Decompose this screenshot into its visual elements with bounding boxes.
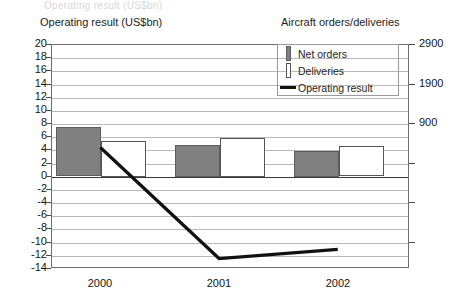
y2-axis-tick-mark (409, 84, 415, 85)
x-axis-category-label: 2001 (189, 277, 249, 289)
legend-item-label: Deliveries (298, 65, 344, 77)
black-line-swatch (278, 86, 298, 89)
y-axis-tick-label: -8 (3, 222, 47, 233)
right-axis-title: Aircraft orders/deliveries (281, 16, 400, 29)
y-axis-tick-label: 2 (3, 157, 47, 168)
y-axis-tick-mark (46, 268, 51, 269)
y2-axis-tick-mark (409, 123, 415, 124)
y-axis-tick-label: 10 (3, 104, 47, 115)
y2-axis-tick-mark (409, 163, 415, 164)
operating-result-polyline (100, 148, 337, 259)
y2-axis-tick-label: 2900 (419, 38, 443, 49)
y-axis-tick-label: 16 (3, 64, 47, 75)
legend-item: Net orders (278, 45, 398, 62)
y-axis-tick-label: 14 (3, 78, 47, 89)
legend-item-label: Net orders (298, 48, 347, 60)
y-axis-tick-label: 20 (3, 38, 47, 49)
y-axis-tick-label: -6 (3, 209, 47, 220)
y-axis-tick-label: -14 (3, 262, 47, 273)
chart-legend: Net ordersDeliveriesOperating result (277, 44, 399, 96)
y2-axis-tick-label: 900 (419, 117, 437, 128)
y2-axis-tick-label: 1900 (419, 78, 443, 89)
y-axis-tick-label: 8 (3, 117, 47, 128)
y2-axis-tick-mark (409, 242, 415, 243)
left-axis-title: Operating result (US$bn) (40, 16, 162, 29)
y-axis-tick-label: -10 (3, 236, 47, 247)
legend-swatch-mark (286, 63, 291, 78)
legend-swatch-mark (280, 86, 296, 89)
y-axis-tick-label: -12 (3, 249, 47, 260)
white-bar-swatch (278, 63, 298, 78)
x-axis-category-label: 2002 (308, 277, 368, 289)
x-axis-category-label: 2000 (70, 277, 130, 289)
chart-figure: Operating result (US$bn) Operating resul… (0, 0, 456, 306)
legend-item: Operating result (278, 79, 398, 96)
y2-axis-tick-mark (409, 202, 415, 203)
clipped-header-artifact: Operating result (US$bn) (44, 0, 162, 11)
legend-swatch-mark (286, 46, 291, 61)
y-axis-tick-label: 4 (3, 143, 47, 154)
y2-axis-tick-mark (409, 44, 415, 45)
y-axis-tick-label: -4 (3, 196, 47, 207)
gray-bar-swatch (278, 46, 298, 61)
y-axis-tick-label: 18 (3, 51, 47, 62)
legend-item: Deliveries (278, 62, 398, 79)
y-axis-tick-label: -2 (3, 183, 47, 194)
y-axis-tick-label: 6 (3, 130, 47, 141)
y-axis-tick-label: 0 (3, 170, 47, 181)
y-axis-tick-label: 12 (3, 91, 47, 102)
legend-item-label: Operating result (298, 82, 373, 94)
